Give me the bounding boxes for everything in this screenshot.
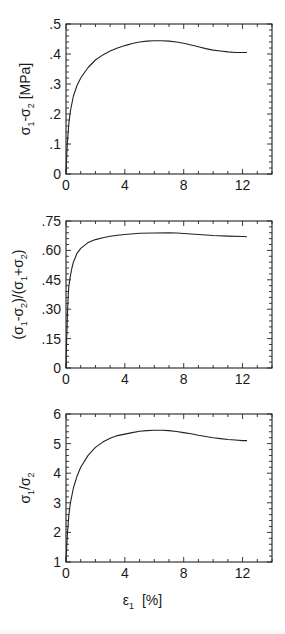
stress-ratio-normalized-chart: 048120.15.30.45.60.75(σ1-σ2)/(σ1+σ2) [10, 213, 272, 387]
x-tick-label: 0 [62, 371, 70, 387]
y-tick-label: 0 [53, 166, 61, 182]
y-tick-label: .4 [49, 46, 61, 62]
y-tick-label: 6 [53, 406, 61, 422]
y-tick-label: .30 [42, 301, 62, 317]
x-tick-label: 12 [235, 371, 251, 387]
y-tick-label: 5 [53, 436, 61, 452]
principal-stress-ratio-chart: 04812123456σ1/σ2 [17, 406, 272, 581]
y-tick-label: 1 [53, 554, 61, 570]
y-tick-label: .5 [49, 16, 61, 32]
x-axis-label-subscript: 1 [129, 601, 134, 611]
data-line [66, 41, 247, 174]
plot-frame [66, 221, 272, 368]
deviatoric-stress-chart: 048120.1.2.3.4.5σ1-σ2 [MPa] [17, 16, 272, 193]
plot-frame [66, 24, 272, 174]
x-tick-label: 4 [121, 371, 129, 387]
x-tick-label: 8 [180, 565, 188, 581]
x-tick-label: 8 [180, 177, 188, 193]
y-tick-label: .2 [49, 106, 61, 122]
x-tick-label: 4 [121, 565, 129, 581]
y-tick-label: 0 [53, 360, 61, 376]
x-tick-label: 12 [235, 177, 251, 193]
y-tick-label: .60 [42, 242, 62, 258]
y-tick-label: 2 [53, 524, 61, 540]
y-axis-title: σ1-σ2 [MPa] [17, 63, 36, 135]
y-tick-label: .75 [42, 213, 62, 229]
x-tick-label: 0 [62, 565, 70, 581]
x-tick-label: 12 [235, 565, 251, 581]
stacked-line-charts: 048120.1.2.3.4.5σ1-σ2 [MPa]048120.15.30.… [0, 0, 285, 634]
y-tick-label: .1 [49, 136, 61, 152]
data-line [66, 430, 247, 562]
y-tick-label: 3 [53, 495, 61, 511]
plot-frame [66, 414, 272, 562]
y-tick-label: 4 [53, 465, 61, 481]
shared-x-axis-label: ε1 [%] [0, 592, 285, 611]
y-tick-label: .15 [42, 331, 62, 347]
x-axis-label-unit: [%] [142, 592, 162, 608]
figure: 048120.1.2.3.4.5σ1-σ2 [MPa]048120.15.30.… [0, 0, 285, 634]
y-tick-label: .45 [42, 272, 62, 288]
data-line [66, 233, 247, 368]
y-axis-title: σ1/σ2 [17, 472, 36, 503]
y-axis-title: (σ1-σ2)/(σ1+σ2) [10, 249, 29, 339]
y-tick-label: .3 [49, 76, 61, 92]
x-tick-label: 8 [180, 371, 188, 387]
cut-off-caption [0, 628, 285, 634]
x-tick-label: 0 [62, 177, 70, 193]
x-tick-label: 4 [121, 177, 129, 193]
